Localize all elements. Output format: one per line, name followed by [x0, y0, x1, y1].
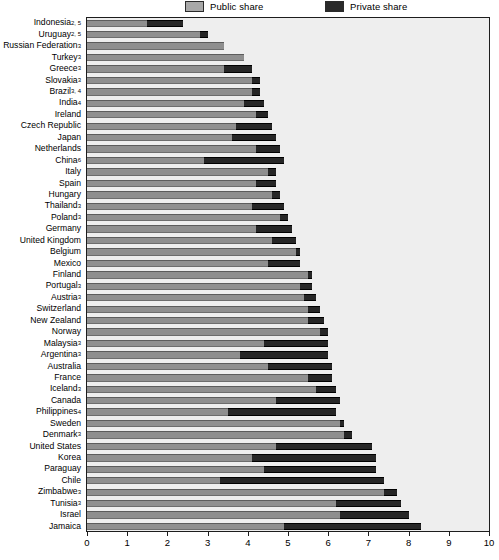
bar-row [87, 373, 489, 384]
stacked-bar [87, 214, 288, 221]
bar-row [87, 453, 489, 464]
bar-row [87, 201, 489, 212]
plot-area [86, 17, 490, 532]
bar-segment-public [87, 317, 308, 324]
stacked-bar [87, 294, 316, 301]
stacked-bar [87, 340, 328, 347]
bar-segment-public [87, 489, 384, 496]
bar-segment-private [300, 283, 312, 290]
bar-segment-public [87, 20, 147, 27]
bar-row [87, 361, 489, 372]
legend-item-private: Private share [325, 1, 407, 12]
bar-segment-private [228, 408, 337, 415]
bar-segment-private [280, 214, 288, 221]
y-axis-label: Uruguay2, 5 [0, 28, 84, 39]
bar-row [87, 338, 489, 349]
stacked-bar [87, 454, 376, 461]
bar-segment-public [87, 328, 320, 335]
y-axis-label: France [0, 372, 84, 383]
bar-segment-private [264, 340, 328, 347]
bar-segment-public [87, 454, 252, 461]
stacked-bar [87, 420, 344, 427]
bar-row [87, 64, 489, 75]
bar-segment-private [296, 248, 300, 255]
stacked-bar [87, 42, 224, 49]
bar-segment-private [384, 489, 396, 496]
y-axis-label: Italy [0, 166, 84, 177]
bar-segment-public [87, 237, 272, 244]
legend-label-public: Public share [210, 1, 263, 12]
bar-segment-private [220, 477, 385, 484]
x-axis-tick-label: 6 [326, 537, 331, 548]
bar-segment-public [87, 363, 268, 370]
x-axis-tick [127, 532, 128, 536]
y-axis-label: Korea [0, 452, 84, 463]
y-axis-label: New Zealand [0, 314, 84, 325]
bar-segment-private [264, 466, 377, 473]
stacked-bar [87, 363, 332, 370]
bar-row [87, 75, 489, 86]
bar-segment-private [256, 225, 292, 232]
bar-row [87, 350, 489, 361]
bar-segment-private [320, 328, 328, 335]
y-axis-label: Chile [0, 475, 84, 486]
bar-row [87, 212, 489, 223]
bar-segment-public [87, 214, 280, 221]
x-axis-tick [288, 532, 289, 536]
bar-segment-private [344, 431, 352, 438]
bar-row [87, 498, 489, 509]
bar-segment-public [87, 408, 228, 415]
y-axis-label: Turkey3 [0, 51, 84, 62]
bar-segment-public [87, 157, 204, 164]
bar-segment-public [87, 420, 340, 427]
bar-segment-public [87, 523, 284, 530]
bar-segment-public [87, 145, 256, 152]
bar-segment-public [87, 203, 252, 210]
y-axis-label: Jamaica [0, 520, 84, 531]
x-axis: 012345678910 [86, 532, 490, 558]
bar-segment-private [256, 180, 276, 187]
bar-row [87, 178, 489, 189]
bar-segment-private [268, 260, 300, 267]
bar-segment-public [87, 431, 344, 438]
bar-segment-private [224, 65, 252, 72]
y-axis-label: Canada [0, 394, 84, 405]
stacked-bar [87, 306, 320, 313]
bar-row [87, 304, 489, 315]
stacked-bar [87, 260, 300, 267]
y-axis-label: Belgium [0, 246, 84, 257]
bar-segment-public [87, 386, 316, 393]
y-axis-label: United States [0, 440, 84, 451]
y-axis-label: Indonesia2, 5 [0, 17, 84, 28]
y-axis-label: Sweden [0, 417, 84, 428]
stacked-bar [87, 397, 340, 404]
y-axis-label: Brazil3, 4 [0, 86, 84, 97]
x-axis-tick-label: 0 [84, 537, 89, 548]
bar-row [87, 293, 489, 304]
bar-segment-public [87, 306, 308, 313]
x-axis-tick [328, 532, 329, 536]
stacked-bar [87, 100, 264, 107]
bar-segment-private [316, 386, 336, 393]
bar-row [87, 441, 489, 452]
bar-segment-private [336, 500, 400, 507]
stacked-bar [87, 123, 272, 130]
y-axis-label: Australia [0, 360, 84, 371]
bar-row [87, 155, 489, 166]
bar-segment-private [252, 77, 260, 84]
bar-segment-public [87, 88, 252, 95]
x-axis-tick-label: 10 [484, 537, 495, 548]
bar-segment-public [87, 271, 308, 278]
y-axis-label: Iceland3 [0, 383, 84, 394]
bar-segment-private [272, 191, 280, 198]
bar-segment-public [87, 42, 224, 49]
stacked-bar [87, 203, 284, 210]
y-axis-label: Malaysia3 [0, 337, 84, 348]
bar-segment-public [87, 500, 336, 507]
bar-row [87, 487, 489, 498]
legend-label-private: Private share [350, 1, 407, 12]
bar-segment-private [268, 363, 332, 370]
stacked-bar [87, 168, 276, 175]
bar-segment-public [87, 65, 224, 72]
y-axis-label: Czech Republic [0, 120, 84, 131]
